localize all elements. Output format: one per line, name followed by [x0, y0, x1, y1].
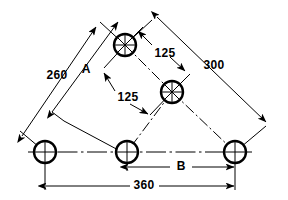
dimension-label-125-lower: 125: [117, 90, 138, 104]
dimension-label-B: B: [177, 159, 186, 173]
hole-bottom-left[interactable]: [34, 141, 56, 163]
dimension-label-360: 360: [133, 178, 154, 192]
dimension-label-260: 260: [46, 68, 67, 82]
engineering-drawing-canvas: 260 A 125 125 300 B 360: [0, 0, 288, 200]
hole-middle-right[interactable]: [161, 81, 183, 103]
hole-bottom-right[interactable]: [224, 141, 246, 163]
technical-drawing-sheet: 260 A 125 125 300 B 360: [0, 0, 288, 200]
hole-bottom-mid[interactable]: [116, 141, 138, 163]
hole-top[interactable]: [114, 34, 136, 56]
dimension-label-A: A: [82, 62, 91, 76]
drawing-background: [0, 0, 288, 200]
dimension-label-125-upper: 125: [154, 46, 175, 60]
dimension-label-300: 300: [203, 58, 224, 72]
